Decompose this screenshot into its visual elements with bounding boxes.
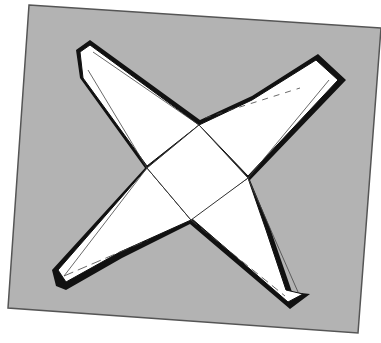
pyramid-net-diagram (0, 0, 381, 343)
